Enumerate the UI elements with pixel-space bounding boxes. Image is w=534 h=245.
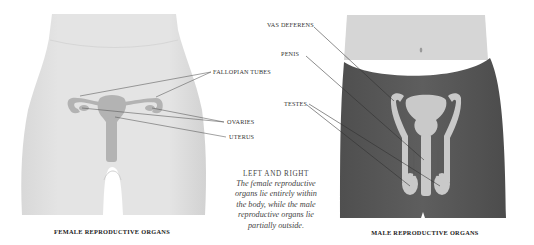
caption-note: LEFT AND RIGHT The female reproductive o… — [230, 169, 322, 231]
label-testes: TESTES — [284, 100, 307, 107]
note-heading: LEFT AND RIGHT — [230, 169, 322, 179]
label-penis: PENIS — [281, 50, 299, 57]
right-ovary — [145, 105, 155, 111]
navel — [420, 48, 423, 53]
left-testis — [402, 173, 418, 195]
label-vas-deferens: VAS DEFERENS — [267, 21, 314, 28]
male-figure-caption: MALE REPRODUCTIVE ORGANS — [371, 229, 478, 236]
note-body: The female reproductive organs lie entir… — [230, 179, 322, 231]
female-figure-caption: FEMALE REPRODUCTIVE ORGANS — [54, 228, 170, 235]
label-uterus: UTERUS — [229, 133, 254, 140]
label-fallopian-tubes: FALLOPIAN TUBES — [213, 68, 271, 75]
penis-shaft — [421, 134, 431, 196]
label-ovaries: OVARIES — [227, 118, 254, 125]
